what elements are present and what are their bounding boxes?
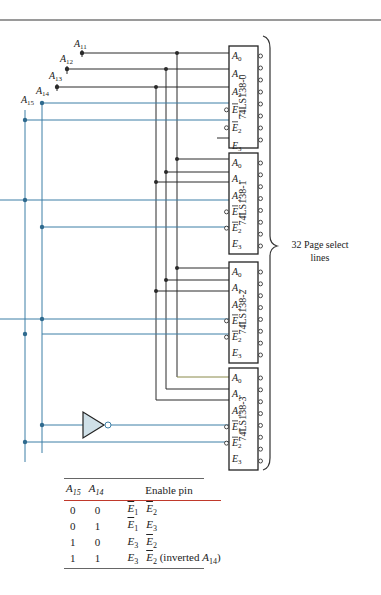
output-bubble: [259, 376, 263, 380]
output-bubble: [259, 329, 263, 333]
output-bubble: [259, 270, 263, 274]
cell-pin2: E3: [144, 517, 220, 533]
output-bubble: [259, 282, 263, 286]
output-bubble: [259, 197, 263, 201]
cell-a14: 0: [85, 501, 118, 518]
output-bubble: [259, 208, 263, 212]
brace-label-line1: 32 Page select: [291, 239, 348, 250]
cell-a14: 1: [85, 550, 118, 566]
inverting-input-bubble: [225, 335, 229, 339]
output-bubble: [259, 90, 263, 94]
output-bubble: [259, 423, 263, 427]
decoder-3-label: 74LS138-3: [237, 397, 248, 442]
inverting-input-bubble: [225, 319, 229, 323]
inverter-gate-icon: [83, 412, 111, 438]
junction-dots-blue: [23, 101, 44, 444]
inverting-input-bubble: [225, 226, 229, 230]
label-a15: A15: [20, 94, 35, 107]
inverting-input-bubble: [225, 425, 229, 429]
output-bubble: [259, 54, 263, 58]
table-row: 11E3E2 (inverted A14): [64, 550, 221, 566]
cell-pin1: E3: [117, 534, 144, 550]
output-brace: [263, 36, 277, 470]
address-labels: A11 A12 A13 A14 A15: [20, 38, 87, 107]
header-a15: A15: [64, 482, 85, 501]
table-row: 01E1E3: [64, 517, 221, 533]
output-bubble: [259, 66, 263, 70]
output-bubble: [259, 353, 263, 357]
output-bubble: [259, 341, 263, 345]
output-bubble: [259, 244, 263, 248]
label-a13: A13: [48, 70, 63, 83]
table-bottom-rule: [64, 568, 204, 569]
output-bubble: [259, 459, 263, 463]
header-enable-pin: Enable pin: [117, 482, 220, 501]
header-a14: A14: [85, 482, 118, 501]
cell-a15: 0: [64, 517, 85, 533]
cell-pin1: E1: [117, 501, 144, 518]
table-header-row: A15 A14 Enable pin: [64, 482, 221, 501]
brace-label-line2: lines: [311, 252, 330, 263]
cell-pin2: E2: [144, 534, 220, 550]
cell-a14: 1: [85, 517, 118, 533]
output-bubble: [259, 317, 263, 321]
table-row: 00E1E2: [64, 501, 221, 518]
output-bubble: [259, 400, 263, 404]
inverting-input-bubble: [225, 126, 229, 130]
cell-a15: 1: [64, 550, 85, 566]
output-bubble: [259, 185, 263, 189]
output-bubble: [259, 232, 263, 236]
output-bubble: [259, 138, 263, 142]
cell-a14: 0: [85, 534, 118, 550]
cell-pin1: E3: [117, 550, 144, 566]
label-a12: A12: [59, 53, 74, 66]
enable-truth-table: A15 A14 Enable pin 00E1E201E1E310E3E211E…: [64, 478, 204, 569]
output-bubble: [259, 294, 263, 298]
output-bubble: [259, 412, 263, 416]
output-bubble: [259, 102, 263, 106]
cell-pin2: E2: [144, 501, 220, 518]
inverting-input-bubble: [225, 210, 229, 214]
output-bubble: [259, 114, 263, 118]
output-bubble: [259, 161, 263, 165]
label-a14: A14: [35, 85, 50, 98]
table-top-rule: [64, 478, 204, 479]
cell-pin2: E2 (inverted A14): [144, 550, 220, 566]
output-bubble: [259, 447, 263, 451]
output-bubble: [259, 435, 263, 439]
output-bubble: [259, 78, 263, 82]
cell-a15: 0: [64, 501, 85, 518]
output-bubble: [259, 306, 263, 310]
output-bubble: [259, 126, 263, 130]
inverting-input-bubble: [225, 441, 229, 445]
output-bubble: [259, 388, 263, 392]
label-a11: A11: [73, 38, 87, 51]
table-row: 10E3E2: [64, 534, 221, 550]
decoder-schematic: A11 A12 A13 A14 A15: [0, 0, 381, 480]
cell-a15: 1: [64, 534, 85, 550]
inverting-input-bubble: [225, 108, 229, 112]
cell-pin1: E1: [117, 517, 144, 533]
enable-wires: [0, 103, 229, 462]
output-bubble: [259, 220, 263, 224]
output-bubble: [259, 173, 263, 177]
